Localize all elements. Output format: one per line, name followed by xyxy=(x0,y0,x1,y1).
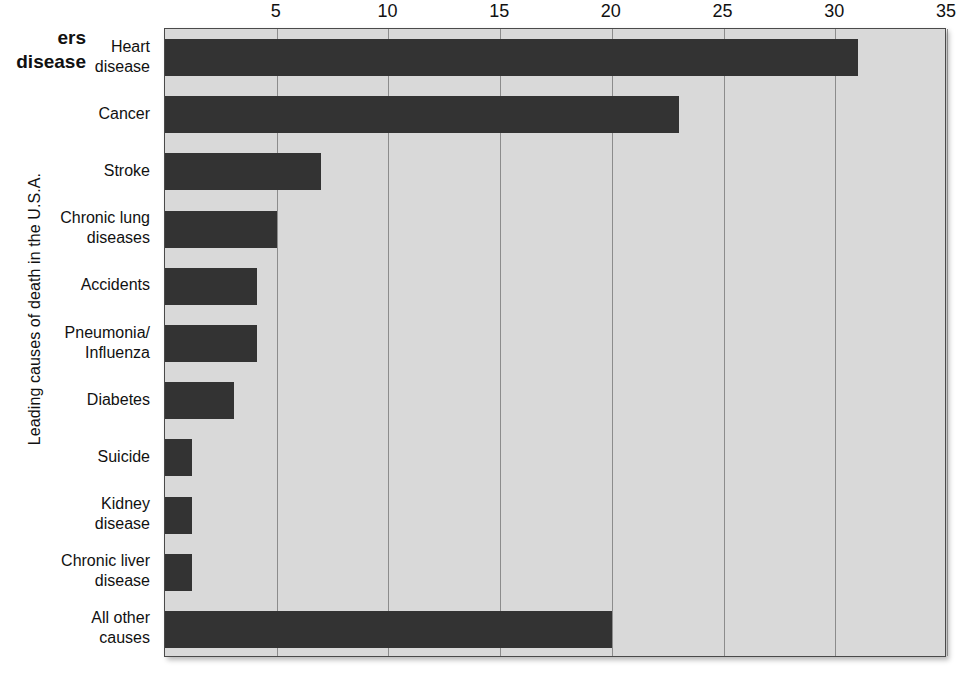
category-axis-labels: Heart diseaseCancerStrokeChronic lung di… xyxy=(0,28,158,657)
x-tick-label: 35 xyxy=(936,1,956,22)
bar xyxy=(165,211,277,248)
category-label: Chronic liver disease xyxy=(0,551,150,591)
bar xyxy=(165,325,257,362)
bar xyxy=(165,96,679,133)
x-tick-label: 25 xyxy=(713,1,733,22)
category-label: Pneumonia/ Influenza xyxy=(0,323,150,363)
category-label: Accidents xyxy=(0,275,150,295)
category-label: Stroke xyxy=(0,161,150,181)
bar xyxy=(165,39,858,76)
category-label: Cancer xyxy=(0,104,150,124)
x-tick-label: 10 xyxy=(377,1,397,22)
chart-plot-area xyxy=(164,28,946,657)
x-tick-label: 15 xyxy=(489,1,509,22)
x-tick-label: 20 xyxy=(601,1,621,22)
category-label: Suicide xyxy=(0,447,150,467)
x-axis-tick-labels: 5101520253035 xyxy=(164,0,946,28)
category-label: Diabetes xyxy=(0,390,150,410)
category-label: All other causes xyxy=(0,608,150,648)
x-tick-label: 5 xyxy=(271,1,281,22)
bar xyxy=(165,268,257,305)
category-label: Kidney disease xyxy=(0,494,150,534)
bar xyxy=(165,611,612,648)
x-tick-label: 30 xyxy=(824,1,844,22)
bar xyxy=(165,382,234,419)
category-label: Heart disease xyxy=(0,37,150,77)
gridline-35 xyxy=(947,29,948,656)
category-label: Chronic lung diseases xyxy=(0,208,150,248)
bar xyxy=(165,497,192,534)
bar-series xyxy=(165,29,945,656)
bar xyxy=(165,153,321,190)
bar xyxy=(165,554,192,591)
bar xyxy=(165,439,192,476)
